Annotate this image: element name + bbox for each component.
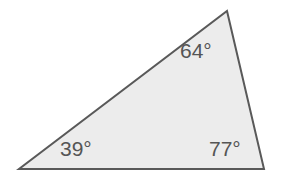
triangle-angle-diagram: 64° 39° 77° bbox=[0, 0, 282, 184]
angle-label-apex: 64° bbox=[180, 40, 212, 61]
angle-label-bottom-left: 39° bbox=[60, 138, 92, 159]
angle-label-bottom-right: 77° bbox=[209, 138, 241, 159]
